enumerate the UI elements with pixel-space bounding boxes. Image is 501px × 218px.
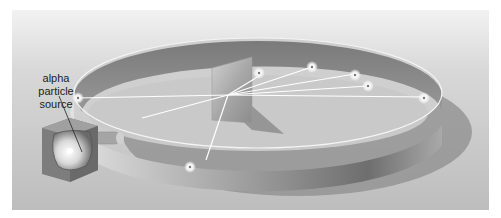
tube-opening [116,132,124,144]
gold-foil [212,57,252,123]
alpha-particle-source-label: alpha particle source [36,72,76,111]
rutherford-apparatus-illustration [12,10,489,210]
diagram-panel: alpha particle source [12,10,489,210]
source-glow [67,148,73,154]
label-line-3: source [36,98,76,111]
label-line-1: alpha [36,72,76,85]
label-line-2: particle [36,85,76,98]
